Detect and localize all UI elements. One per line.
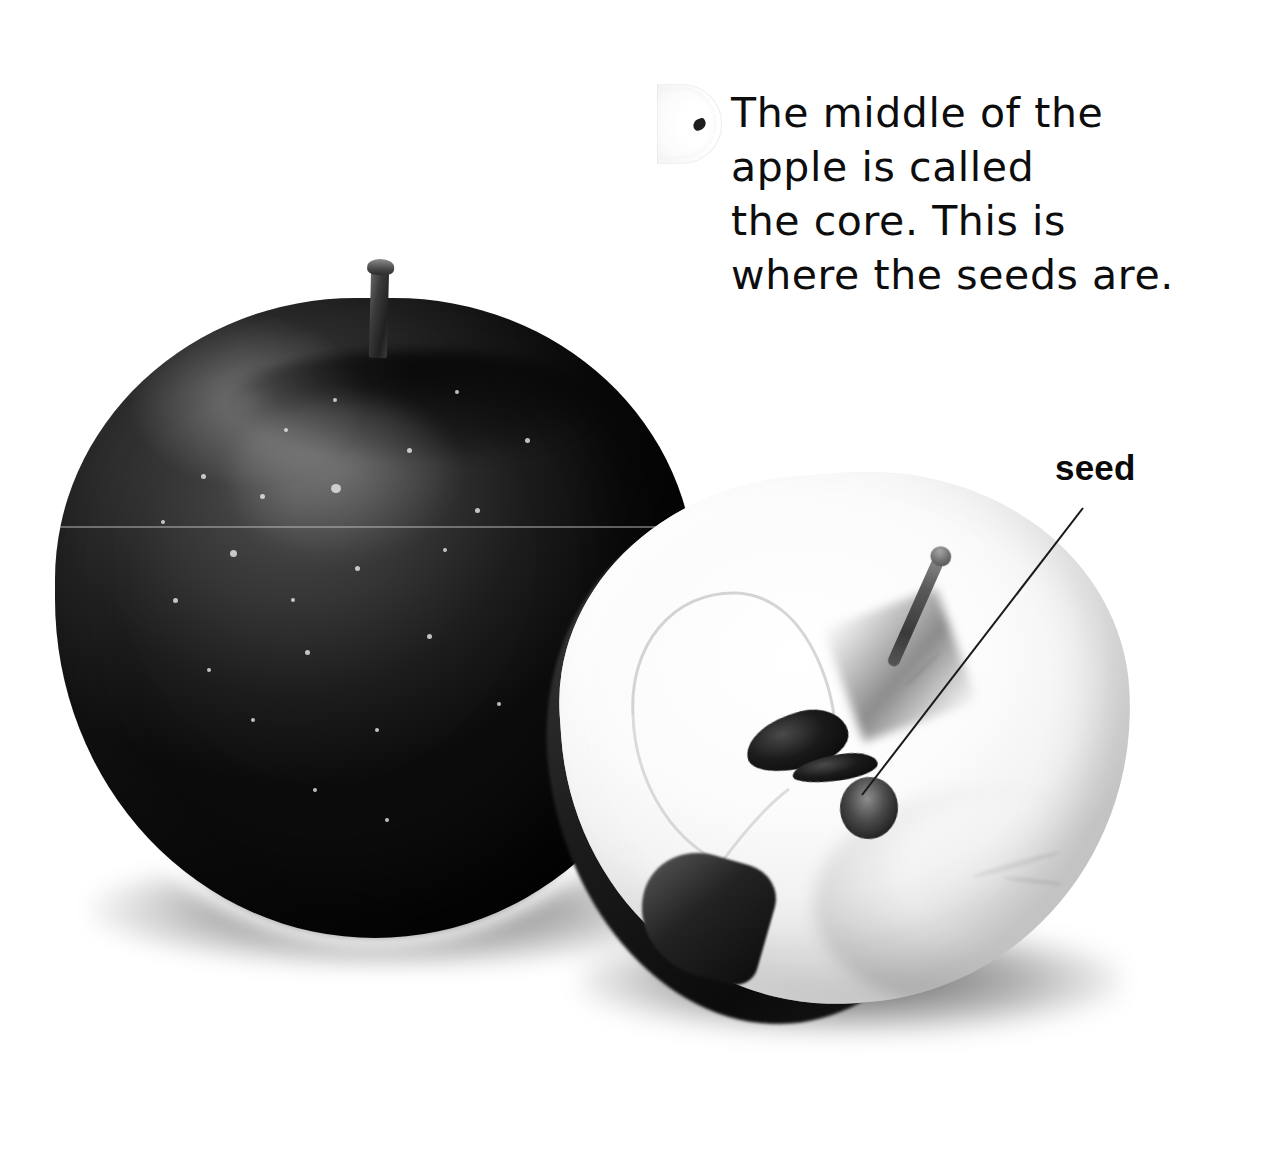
caption-line: where the seeds are. [731,248,1231,302]
seed-callout-label: seed [1055,448,1136,488]
whole-apple-stem [369,266,389,358]
apple-anatomy-page: seed The middle of the apple is called t… [0,0,1270,1150]
caption-text-block: The middle of the apple is called the co… [731,86,1231,302]
half-apple-photo [520,455,1160,1095]
caption-line: apple is called [731,140,1231,194]
apple-slice-seed-icon [692,117,708,131]
caption-line: The middle of the [731,86,1231,140]
whole-apple-highlight [230,398,460,558]
caption-line: the core. This is [731,194,1231,248]
apple-slice-ghost-icon [657,84,722,164]
